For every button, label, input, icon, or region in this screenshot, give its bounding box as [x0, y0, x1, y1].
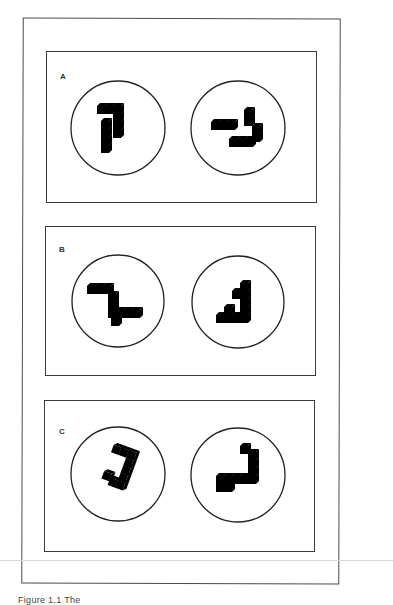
- panel-c: C: [44, 400, 315, 552]
- panel-b: B: [45, 226, 316, 376]
- panel-c-label: C: [59, 427, 65, 436]
- panel-a-label: A: [60, 72, 66, 81]
- panel-a: A: [46, 51, 317, 203]
- figure-caption: Figure 1.1 The: [18, 595, 81, 605]
- panel-b-label: B: [59, 245, 65, 254]
- scan-artifact-line: [0, 560, 393, 561]
